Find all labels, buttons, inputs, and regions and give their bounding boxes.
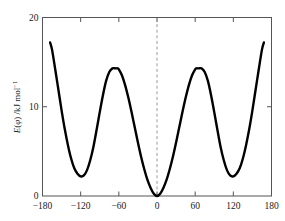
- x-tick-label: 0: [155, 201, 160, 211]
- x-tick-label: −60: [111, 201, 126, 211]
- y-axis-title: E(φ) /kJ mol−1: [11, 81, 23, 134]
- x-tick-label: 120: [226, 201, 241, 211]
- y-tick-label: 0: [34, 191, 39, 201]
- x-tick-label: 60: [190, 201, 200, 211]
- y-tick-label: 20: [29, 13, 39, 23]
- x-tick-label: −120: [71, 201, 91, 211]
- energy-profile-chart: −180−120−60060120180 01020 E(φ) /kJ mol−…: [0, 0, 285, 221]
- chart-container: −180−120−60060120180 01020 E(φ) /kJ mol−…: [0, 0, 285, 221]
- y-tick-label: 10: [29, 102, 39, 112]
- x-tick-label: −180: [33, 201, 53, 211]
- x-tick-label: 180: [264, 201, 279, 211]
